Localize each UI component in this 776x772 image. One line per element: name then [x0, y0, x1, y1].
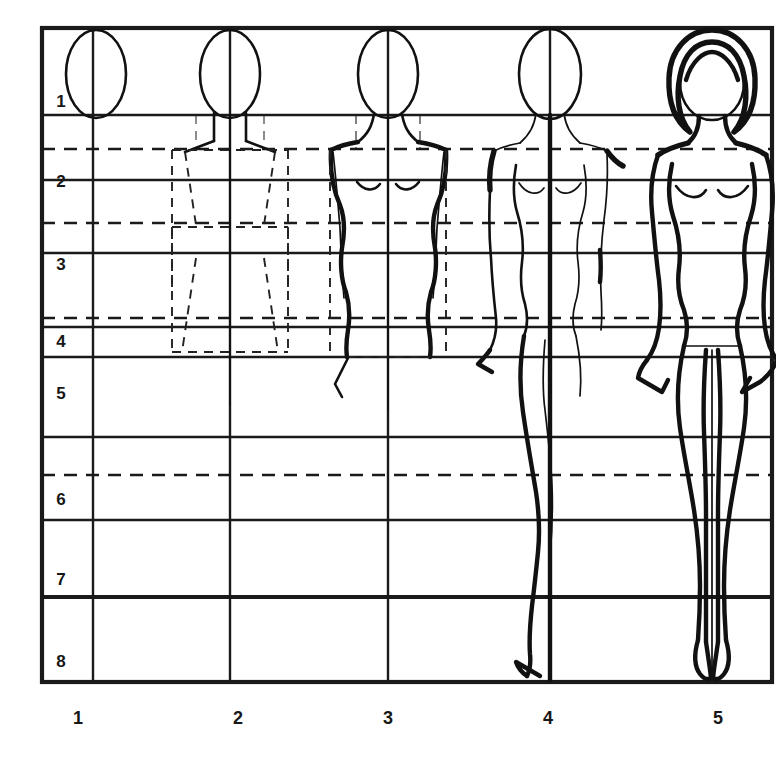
leg-right-step-4 [576, 336, 581, 396]
column-label-2: 2 [225, 709, 251, 727]
hair-step-5 [669, 30, 755, 132]
arm-outer-right-step-5 [764, 155, 776, 360]
grid-lines [42, 28, 772, 682]
grid-horizontal-solid [42, 115, 772, 597]
row-label-2: 2 [48, 173, 74, 190]
neck-right-step-4 [564, 114, 580, 143]
column-label-3: 3 [375, 709, 401, 727]
column-label-1: 1 [65, 709, 91, 727]
hairline-step-5 [686, 52, 738, 80]
grid-vertical-solid [93, 28, 550, 682]
row-label-1: 1 [48, 93, 74, 110]
leg-left-inner-step-5 [704, 350, 706, 642]
neck-right-step-3 [402, 114, 418, 142]
grid-outer-border [42, 28, 772, 682]
arm-outer-left-step-5 [647, 155, 661, 360]
leg-start-step-3 [335, 358, 348, 397]
leg-left-outer-step-4 [520, 336, 539, 676]
bust-right-step-4 [556, 183, 581, 193]
bust-left-step-3 [357, 182, 380, 189]
neck-left-step-4 [520, 114, 536, 143]
ankle-left-step-5 [706, 642, 711, 678]
deltoid-right-step-4 [607, 151, 623, 166]
row-label-8: 8 [48, 653, 74, 670]
proportion-chart-page: .gl { stroke:#1a1a1a; fill:none; } .gh {… [0, 0, 776, 772]
row-label-4: 4 [48, 333, 74, 350]
hand-left-step-4 [478, 350, 492, 372]
figure-drawing-board: .gl { stroke:#1a1a1a; fill:none; } .gh {… [0, 0, 776, 772]
step-4-figure [478, 29, 623, 680]
bust-left-step-4 [519, 183, 544, 193]
bust-left-step-5 [676, 186, 706, 197]
neck-left-step-3 [358, 114, 374, 142]
column-label-4: 4 [535, 709, 561, 727]
column-label-5: 5 [705, 709, 731, 727]
hand-left-step-5 [638, 360, 668, 392]
bust-right-step-3 [396, 182, 419, 189]
row-label-5: 5 [48, 385, 74, 402]
row-label-7: 7 [48, 571, 74, 588]
step-5-figure [638, 30, 776, 679]
row-label-3: 3 [48, 256, 74, 273]
leg-right-inner-step-5 [718, 350, 720, 642]
row-label-6: 6 [48, 491, 74, 508]
ankle-right-step-5 [713, 642, 718, 678]
bust-right-step-5 [718, 186, 748, 197]
step-1-figure [66, 30, 126, 118]
forearm-accent-right-step-4 [600, 250, 601, 282]
torso-left-step-5 [669, 164, 687, 346]
deltoid-left-step-4 [490, 151, 494, 190]
shoulder-right-step-5 [736, 143, 766, 155]
head-oval-step-1 [66, 30, 126, 118]
